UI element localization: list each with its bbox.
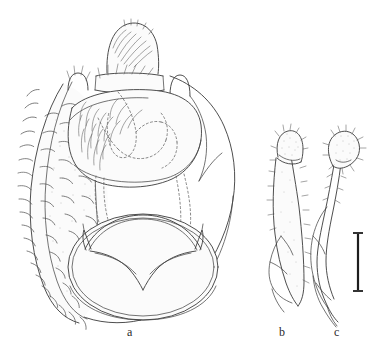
anatomical-line-drawing: .ln { fill:none; stroke:#3a3a3a; stroke-… [0, 0, 382, 358]
figure-plate: .ln { fill:none; stroke:#3a3a3a; stroke-… [0, 0, 382, 358]
panel-c-drawing [311, 125, 366, 327]
panel-b-drawing [267, 124, 311, 312]
scale-bar [353, 233, 363, 291]
panel-label-c: c [334, 326, 339, 338]
panel-a-apical-dome [107, 19, 159, 74]
panel-a-drawing [18, 19, 235, 329]
panel-a-lower-oval [68, 214, 218, 320]
panel-label-b: b [279, 326, 285, 338]
panel-label-a: a [127, 326, 132, 338]
